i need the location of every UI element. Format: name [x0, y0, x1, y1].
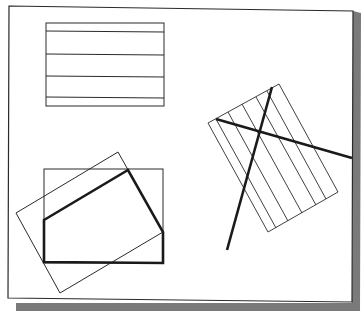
drawing-canvas	[0, 0, 364, 317]
